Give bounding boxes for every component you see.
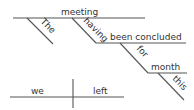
sentence-diagram: meeting The having been concluded for mo…	[0, 0, 194, 110]
word-for: for	[135, 44, 151, 60]
word-been-concluded: been concluded	[110, 32, 182, 42]
word-we: we	[31, 86, 44, 96]
word-having: having	[82, 15, 111, 44]
word-meeting: meeting	[61, 7, 98, 17]
word-month: month	[151, 62, 180, 72]
word-left: left	[93, 86, 108, 96]
